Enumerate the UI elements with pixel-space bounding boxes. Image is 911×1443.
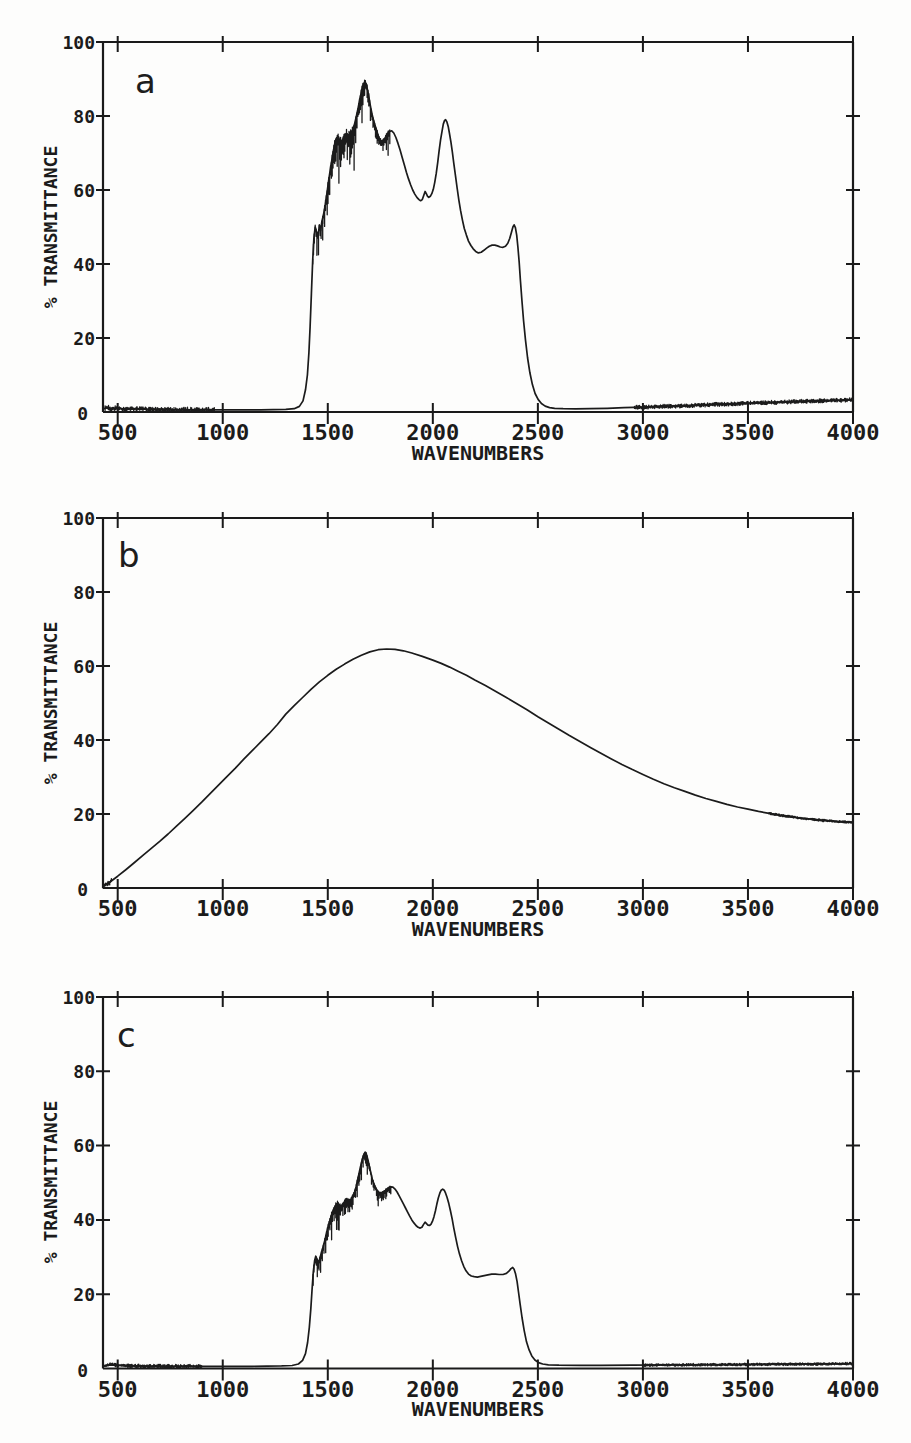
ir-spectra-figure: 5001000150020002500300035004000020406080… [0, 0, 911, 1443]
x-tick-label: 3500 [721, 1377, 774, 1402]
y-tick-label: 100 [62, 508, 95, 529]
y-tick-label: 80 [73, 582, 95, 603]
figure-page: 5001000150020002500300035004000020406080… [0, 0, 911, 1443]
spectrum-panel-c: 5001000150020002500300035004000020406080… [40, 987, 879, 1422]
spectrum-panel-b: 5001000150020002500300035004000020406080… [40, 508, 879, 942]
x-tick-label: 1500 [301, 420, 354, 445]
y-tick-label: 40 [73, 254, 95, 275]
y-axis-title-c: % TRANSMITTANCE [40, 1101, 61, 1264]
axis-ticks [96, 36, 860, 424]
axes-frame [103, 997, 853, 1369]
x-axis-title-c: WAVENUMBERS [412, 1397, 544, 1421]
spectrum-panel-a: 5001000150020002500300035004000020406080… [40, 32, 879, 466]
axes-frame [103, 518, 853, 888]
y-tick-label: 60 [73, 1135, 95, 1156]
x-tick-label: 500 [98, 420, 138, 445]
x-tick-label: 4000 [827, 1377, 880, 1402]
x-axis-title-b: WAVENUMBERS [412, 917, 544, 941]
noise-strokes [105, 80, 853, 412]
x-tick-label: 3500 [721, 896, 774, 921]
x-tick-label: 1000 [196, 420, 249, 445]
y-tick-label: 100 [62, 987, 95, 1008]
x-tick-label: 3000 [616, 896, 669, 921]
x-tick-label: 1500 [301, 1377, 354, 1402]
spectrum-plot-a: 5001000150020002500300035004000020406080… [62, 32, 879, 446]
y-tick-label: 20 [73, 328, 95, 349]
spectrum-curve [103, 82, 853, 410]
x-tick-label: 3000 [616, 420, 669, 445]
noise-strokes [105, 1152, 853, 1368]
x-tick-label: 3000 [616, 1377, 669, 1402]
spectrum-plot-c: 5001000150020002500300035004000020406080… [62, 987, 879, 1402]
y-tick-label: 60 [73, 180, 95, 201]
y-tick-label: 40 [73, 730, 95, 751]
y-tick-label: 20 [73, 804, 95, 825]
x-tick-label: 1000 [196, 1377, 249, 1402]
y-tick-label: 0 [77, 403, 88, 424]
spectrum-curve [103, 1152, 853, 1366]
spectrum-curve [103, 649, 853, 886]
y-tick-label: 0 [77, 1360, 88, 1381]
x-tick-label: 4000 [827, 896, 880, 921]
x-tick-label: 500 [98, 1377, 138, 1402]
axis-ticks [96, 512, 860, 900]
y-tick-label: 80 [73, 106, 95, 127]
panel-label-b: b [118, 535, 140, 575]
y-tick-label: 40 [73, 1209, 95, 1230]
x-tick-label: 4000 [827, 420, 880, 445]
x-axis-title-a: WAVENUMBERS [412, 441, 544, 465]
spectrum-plot-b: 5001000150020002500300035004000020406080… [62, 508, 879, 922]
y-axis-title-a: % TRANSMITTANCE [40, 146, 61, 309]
x-tick-label: 1500 [301, 896, 354, 921]
panel-label-a: a [135, 61, 156, 101]
y-tick-label: 80 [73, 1061, 95, 1082]
x-tick-label: 500 [98, 896, 138, 921]
y-tick-label: 60 [73, 656, 95, 677]
y-axis-title-b: % TRANSMITTANCE [40, 622, 61, 785]
y-tick-label: 20 [73, 1284, 95, 1305]
noise-strokes [103, 813, 853, 888]
y-tick-label: 100 [62, 32, 95, 53]
x-tick-label: 1000 [196, 896, 249, 921]
axes-frame [103, 42, 853, 412]
y-tick-label: 0 [77, 879, 88, 900]
axis-ticks [96, 991, 860, 1381]
x-tick-label: 3500 [721, 420, 774, 445]
panel-label-c: c [117, 1015, 136, 1055]
